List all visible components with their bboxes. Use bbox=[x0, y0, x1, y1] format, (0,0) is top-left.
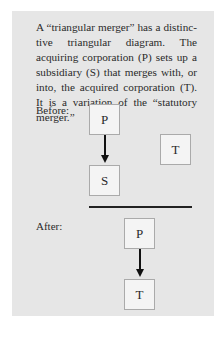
after-parent-label: P bbox=[136, 226, 143, 242]
before-subsidiary-label: S bbox=[101, 173, 108, 189]
after-arrow-line bbox=[139, 249, 141, 271]
before-arrow-line bbox=[104, 135, 106, 157]
before-target-label: T bbox=[172, 142, 180, 158]
divider-line bbox=[89, 206, 192, 208]
before-target-box: T bbox=[160, 134, 191, 165]
after-parent-box: P bbox=[124, 218, 155, 249]
before-arrow-head-icon bbox=[101, 155, 109, 163]
after-target-label: T bbox=[136, 287, 144, 303]
before-subsidiary-box: S bbox=[89, 165, 120, 196]
after-arrow-head-icon bbox=[136, 269, 144, 277]
after-target-box: T bbox=[124, 279, 155, 310]
before-parent-box: P bbox=[89, 104, 120, 135]
after-label: After: bbox=[36, 220, 62, 232]
before-parent-label: P bbox=[101, 112, 108, 128]
before-label: Before: bbox=[36, 104, 69, 116]
